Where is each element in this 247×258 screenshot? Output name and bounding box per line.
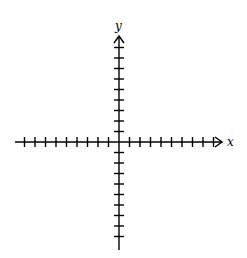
coordinate-plane: x y: [0, 0, 247, 258]
y-axis-label: y: [114, 19, 122, 33]
x-axis-label: x: [227, 135, 234, 149]
